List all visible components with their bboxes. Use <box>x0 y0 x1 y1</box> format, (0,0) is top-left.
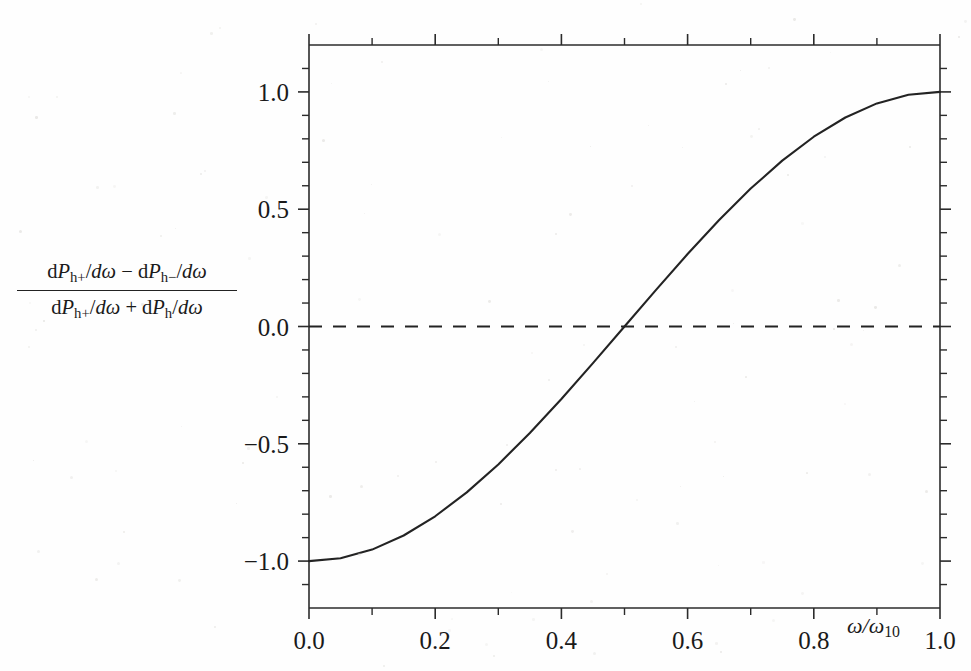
math-token: dω <box>178 296 203 318</box>
math-token: h− <box>161 269 177 285</box>
scan-speckle <box>180 72 182 74</box>
scan-speckle <box>532 618 535 621</box>
scan-speckle <box>488 300 491 303</box>
scan-speckle <box>590 600 593 603</box>
scan-speckle <box>725 83 727 85</box>
math-token: d <box>138 260 148 282</box>
scan-speckle <box>676 522 679 525</box>
chart-canvas: 0.00.20.40.60.81.01.00.50.0−0.5−1.0 <box>0 0 971 671</box>
y-axis-title: dPh+/dω − dPh−/dω dPh+/dω + dPh/dω <box>16 258 238 323</box>
scan-speckle <box>210 32 213 35</box>
scan-speckle <box>248 257 251 260</box>
scan-speckle <box>898 264 901 267</box>
scan-speckle <box>329 495 332 498</box>
y-tick-label: 0.5 <box>258 196 289 223</box>
scan-speckle <box>43 320 45 322</box>
scan-speckle <box>493 655 495 657</box>
scan-speckle <box>451 618 453 620</box>
math-token: d <box>51 296 61 318</box>
scan-speckle <box>806 472 808 474</box>
scan-speckle <box>720 651 722 653</box>
figure-container: 0.00.20.40.60.81.01.00.50.0−0.5−1.0 dPh+… <box>0 0 971 671</box>
scan-speckle <box>548 379 550 381</box>
scan-speckle <box>96 186 99 189</box>
scan-speckle <box>178 579 181 582</box>
scan-speckle <box>571 530 574 533</box>
scan-speckle <box>874 306 877 309</box>
math-token: + <box>120 296 142 318</box>
scan-speckle <box>242 462 244 464</box>
scan-speckle <box>833 328 835 330</box>
scan-speckle <box>28 96 30 98</box>
scan-speckle <box>397 475 399 477</box>
scan-speckle <box>801 592 804 595</box>
scan-speckle <box>750 135 753 138</box>
scan-speckle <box>583 344 585 346</box>
math-token: h+ <box>74 305 90 321</box>
scan-speckle <box>964 20 967 23</box>
scan-speckle <box>265 196 268 199</box>
scan-speckle <box>315 23 317 25</box>
y-tick-label: −0.5 <box>244 431 289 458</box>
scan-speckle <box>141 303 144 306</box>
y-tick-label: 1.0 <box>258 79 289 106</box>
scan-speckle <box>113 185 116 188</box>
scan-speckle <box>28 346 30 348</box>
scan-speckle <box>173 112 176 115</box>
scan-speckle <box>56 96 58 98</box>
scan-speckle <box>298 641 300 643</box>
scan-speckle <box>837 299 840 302</box>
scan-speckle <box>801 222 804 225</box>
scan-speckle <box>745 376 747 378</box>
scan-speckle <box>824 156 826 158</box>
math-token: dω <box>96 296 121 318</box>
math-token: d <box>142 296 152 318</box>
scan-speckle <box>793 18 796 21</box>
scan-speckle <box>214 626 216 628</box>
scan-speckle <box>358 553 361 556</box>
scan-speckle <box>731 289 734 292</box>
scan-speckle <box>500 503 502 505</box>
scan-speckle <box>506 444 508 446</box>
scan-speckle <box>438 233 441 236</box>
x-axis-title: ω/ω10 <box>847 613 900 641</box>
x-tick-label: 0.8 <box>798 627 829 654</box>
x-tick-label: 1.0 <box>924 627 955 654</box>
scan-speckle <box>35 116 38 119</box>
y-tick-label: −1.0 <box>244 548 289 575</box>
scan-speckle <box>569 213 572 216</box>
x-tick-label: 0.6 <box>672 627 703 654</box>
scan-speckle <box>555 469 557 471</box>
scan-speckle <box>762 561 765 564</box>
math-token: dω <box>182 260 207 282</box>
math-token: h+ <box>70 269 86 285</box>
scan-speckle <box>383 665 385 667</box>
scan-speckle <box>768 67 770 69</box>
scan-speckle <box>921 562 924 565</box>
x-axis-title-main: ω/ω <box>847 613 884 638</box>
scan-speckle <box>758 128 760 130</box>
math-token: P <box>62 296 75 318</box>
math-token: − <box>116 260 138 282</box>
scan-speckle <box>830 52 831 53</box>
scan-speckle <box>636 499 638 501</box>
math-token: P <box>148 260 161 282</box>
scan-speckle <box>117 562 120 565</box>
scan-speckle <box>435 461 437 463</box>
scan-speckle <box>219 27 221 29</box>
y-tick-label: 0.0 <box>258 314 289 341</box>
scan-speckle <box>247 447 250 450</box>
x-axis-title-subscript: 10 <box>884 623 900 640</box>
scan-speckle <box>714 441 716 443</box>
tick-labels: 0.00.20.40.60.81.01.00.50.0−0.5−1.0 <box>244 79 956 654</box>
math-token: d <box>47 260 57 282</box>
math-token: P <box>152 296 165 318</box>
scan-speckle <box>35 329 37 331</box>
scan-speckle <box>448 629 451 632</box>
scan-speckle <box>844 403 846 405</box>
scan-speckle <box>579 468 581 470</box>
y-axis-title-numerator: dPh+/dω − dPh−/dω <box>16 258 238 290</box>
y-axis-title-denominator: dPh+/dω + dPh/dω <box>16 291 238 323</box>
scan-speckle <box>675 346 677 348</box>
x-tick-label: 0.2 <box>420 627 451 654</box>
